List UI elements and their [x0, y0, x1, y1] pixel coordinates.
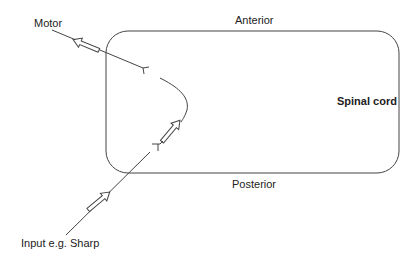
motor-synapse-icon [143, 67, 149, 74]
sensory-arrow-icon [85, 188, 113, 214]
motor-arrow-icon [71, 35, 101, 55]
diagram-graphics [0, 0, 418, 263]
posterior-label: Posterior [232, 179, 276, 190]
spinal-cord-label: Spinal cord [337, 96, 397, 107]
input-synapse-icon [152, 144, 160, 151]
spinal-reflex-diagram: Motor Anterior Spinal cord Posterior Inp… [0, 0, 418, 263]
interneuron-curve [160, 78, 187, 122]
input-label: Input e.g. Sharp [21, 238, 99, 249]
motor-label: Motor [34, 18, 62, 29]
interneuron-arrow-icon [158, 117, 184, 145]
anterior-label: Anterior [235, 15, 274, 26]
